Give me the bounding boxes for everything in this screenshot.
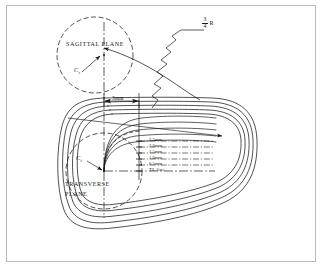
sagittal-leader-curve bbox=[104, 48, 200, 100]
series-label-5: 0.5mm bbox=[149, 162, 162, 167]
radius-symbol: R bbox=[209, 20, 213, 26]
radius-fraction-denominator: 4 bbox=[202, 24, 208, 30]
sagittal-center-dot bbox=[103, 54, 105, 56]
radius-note-zigzag-leader bbox=[152, 30, 204, 108]
transverse-plane-label-line2: PLANE bbox=[65, 191, 87, 197]
sagittal-plane-circle bbox=[57, 17, 133, 93]
radius-fraction: 3 4 bbox=[202, 17, 208, 30]
dimension-3mm-label: 3mm bbox=[112, 96, 124, 101]
transverse-center-subscript: t bbox=[80, 158, 81, 163]
cs-pointer-arrow bbox=[82, 56, 100, 72]
series-label-4: 1.0mm bbox=[149, 156, 162, 161]
radius-note: 3 4 R bbox=[202, 17, 213, 30]
transverse-center-dot bbox=[103, 170, 105, 172]
sagittal-plane-label: SAGITTAL PLANE bbox=[66, 41, 124, 47]
series-label-1: 2.5mm bbox=[149, 138, 162, 143]
diagram-canvas bbox=[0, 0, 323, 269]
series-label-2: 2.0mm bbox=[149, 144, 162, 149]
series-label-3: 1.5mm bbox=[149, 150, 162, 155]
ct-pointer-arrow bbox=[87, 161, 102, 170]
transverse-center-label: Ct bbox=[76, 155, 82, 164]
transverse-plane-label-line1: TRANSVERSE bbox=[65, 181, 110, 187]
sagittal-center-label: Cs bbox=[74, 67, 80, 76]
figure-root: SAGITTAL PLANE TRANSVERSE PLANE Cs Ct 3m… bbox=[0, 0, 323, 269]
tl-line-label: TL line bbox=[149, 168, 165, 173]
sagittal-center-subscript: s bbox=[78, 70, 80, 75]
diagonal-pointer-line bbox=[68, 118, 222, 136]
